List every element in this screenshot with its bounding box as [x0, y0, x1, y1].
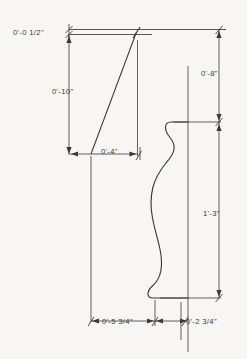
top-rail-lines: [70, 30, 226, 35]
drawing-canvas: [0, 0, 247, 359]
dim-label-base-width-left: 0'-5 3/4": [102, 318, 133, 326]
dim-label-top-thickness: 0'-0 1/2": [13, 29, 44, 37]
dim-label-upper-height: 0'-10": [52, 88, 73, 96]
drawing-sheet: 0'-0 1/2" 0'-10" 0'-4" 0'-8" 1'-3" 0'-5 …: [0, 0, 247, 359]
baluster-profile: [148, 122, 188, 298]
rake-line: [91, 32, 137, 154]
dim-line-base-width-right: [155, 302, 188, 340]
dim-label-overall-height: 1'-3": [203, 210, 220, 218]
dim-label-rake-offset: 0'-4": [101, 148, 118, 156]
dim-label-base-width-right: 0'-2 3/4": [186, 318, 217, 326]
dim-label-top-to-shoulder: 0'-8": [201, 70, 218, 78]
